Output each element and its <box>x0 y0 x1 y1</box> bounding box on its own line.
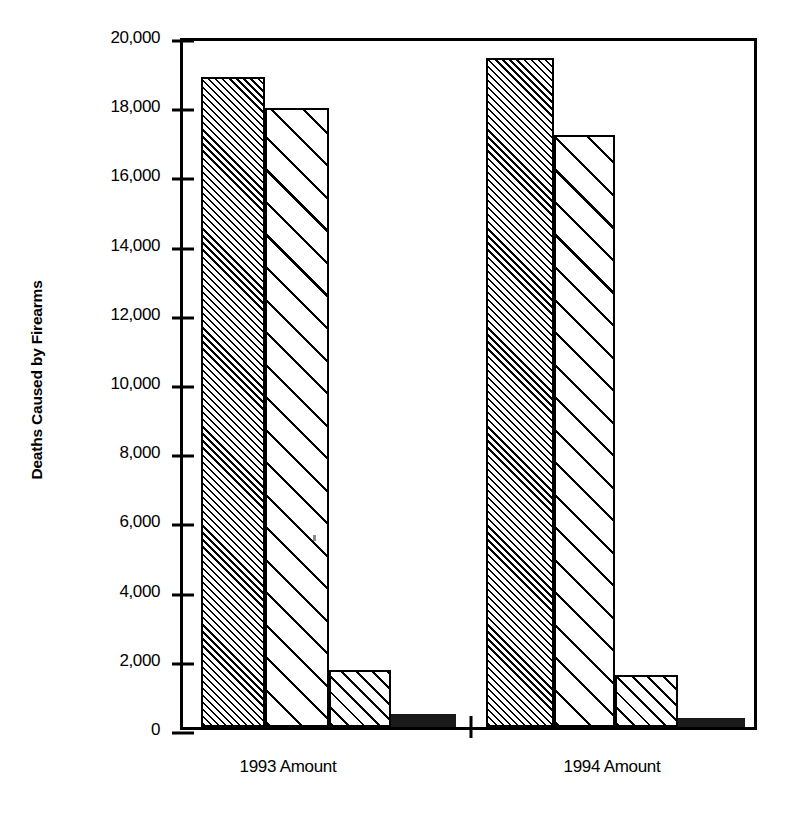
y-axis-tick-mark <box>172 247 194 250</box>
y-axis-tick-label: 4,000 <box>64 582 160 602</box>
y-axis-tick-labels: 20,00018,00016,00014,00012,00010,0008,00… <box>48 0 160 816</box>
plot-frame <box>180 38 757 730</box>
y-axis-tick-label: 18,000 <box>64 97 160 117</box>
y-axis-tick-mark <box>172 662 194 665</box>
y-axis-tick-mark <box>172 178 194 181</box>
y-axis-tick-label: 16,000 <box>64 166 160 186</box>
y-axis-tick-mark <box>172 109 194 112</box>
y-axis-tick-mark <box>172 593 194 596</box>
bar <box>329 670 391 727</box>
y-axis-tick-label: 14,000 <box>64 236 160 256</box>
bar-chart: Deaths Caused by Firearms 20,00018,00016… <box>0 0 790 816</box>
y-axis-tick-mark <box>172 732 194 735</box>
y-axis-tick-label: 8,000 <box>64 443 160 463</box>
y-axis-tick-label: 6,000 <box>64 512 160 532</box>
y-axis-tick-mark <box>172 316 194 319</box>
y-axis-tick-mark <box>172 455 194 458</box>
y-axis-tick-mark <box>172 386 194 389</box>
bar <box>201 77 265 727</box>
x-axis-category-label: 1993 Amount <box>240 757 337 777</box>
bar <box>678 718 745 727</box>
plot-area <box>183 41 754 727</box>
y-axis-tick-label: 0 <box>64 720 160 740</box>
bar <box>486 58 554 728</box>
y-axis-tick-label: 12,000 <box>64 305 160 325</box>
bar <box>615 675 678 727</box>
scan-artifact <box>313 535 316 541</box>
y-axis-tick-mark <box>172 524 194 527</box>
y-axis-tick-mark <box>172 40 194 43</box>
x-axis-category-label: 1994 Amount <box>564 757 661 777</box>
bar <box>391 714 456 727</box>
bar <box>554 135 615 727</box>
x-axis-group-separator-tick <box>470 716 473 738</box>
bar <box>265 108 329 727</box>
y-axis-title-label: Deaths Caused by Firearms <box>28 280 46 479</box>
y-axis-tick-label: 10,000 <box>64 374 160 394</box>
y-axis-tick-label: 2,000 <box>64 651 160 671</box>
y-axis-title: Deaths Caused by Firearms <box>24 0 50 760</box>
y-axis-tick-label: 20,000 <box>64 28 160 48</box>
